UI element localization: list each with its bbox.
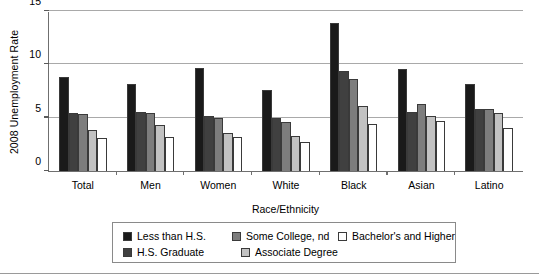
unemployment-bar-chart-figure: 2008 Unemployment Rate 051015 TotalMenWo… — [0, 0, 539, 276]
legend-label-associate-degree: Associate Degree — [255, 246, 338, 258]
bar-asian-series-4 — [436, 121, 446, 171]
bar-asian-series-3 — [426, 116, 436, 171]
bar-men-series-3 — [155, 125, 165, 171]
bar-white-series-1 — [272, 118, 282, 171]
bar-group-white: White — [252, 12, 320, 171]
x-tick-mark-0 — [116, 171, 117, 175]
bar-latino-series-1 — [475, 109, 485, 171]
x-axis-title: Race/Ethnicity — [48, 203, 523, 215]
bar-group-women: Women — [184, 12, 252, 171]
bar-white-series-2 — [281, 122, 291, 171]
bar-latino-series-2 — [484, 109, 494, 171]
bar-black-series-1 — [339, 71, 349, 171]
bar-groups: TotalMenWomenWhiteBlackAsianLatino — [49, 12, 523, 171]
bar-white-series-3 — [291, 136, 301, 171]
x-tick-label-total: Total — [49, 180, 117, 191]
bar-total-series-3 — [88, 130, 98, 171]
bar-asian-series-0 — [398, 69, 408, 171]
bar-group-asian: Asian — [388, 12, 456, 171]
bar-black-series-0 — [330, 23, 340, 171]
y-tick-label-10: 10 — [29, 49, 41, 60]
bar-asian-series-1 — [407, 112, 417, 171]
bar-white-series-4 — [300, 142, 310, 171]
bar-black-series-4 — [368, 124, 378, 171]
bar-women-series-3 — [223, 133, 233, 171]
x-tick-mark-5 — [454, 171, 455, 175]
legend-item-less-than-hs: Less than H.S. — [123, 230, 232, 242]
bar-women-series-2 — [214, 118, 224, 171]
y-tick-label-5: 5 — [35, 102, 41, 113]
y-tick-label-15: 15 — [29, 0, 41, 6]
bar-men-series-2 — [146, 113, 156, 171]
bar-group-latino: Latino — [455, 12, 523, 171]
gridline-15 — [49, 10, 523, 11]
x-tick-label-men: Men — [117, 180, 185, 191]
legend-swatch-some-college — [232, 232, 241, 241]
bar-latino-series-4 — [503, 128, 513, 171]
bar-men-series-4 — [165, 137, 175, 171]
legend-swatch-associate-degree — [241, 248, 250, 257]
bar-women-series-0 — [195, 68, 205, 171]
legend-swatch-less-than-hs — [123, 232, 132, 241]
bar-women-series-4 — [233, 137, 243, 171]
legend-item-bachelors: Bachelor's and Higher — [338, 230, 455, 242]
x-tick-mark-3 — [319, 171, 320, 175]
bar-group-black: Black — [320, 12, 388, 171]
bar-white-series-0 — [262, 90, 272, 171]
bar-group-men: Men — [117, 12, 185, 171]
chart-legend: Less than H.S. Some College, nd Bachelor… — [112, 222, 456, 263]
x-tick-label-latino: Latino — [455, 180, 523, 191]
legend-label-hs-graduate: H.S. Graduate — [137, 246, 204, 258]
legend-item-associate-degree: Associate Degree — [241, 246, 356, 258]
x-tick-label-black: Black — [320, 180, 388, 191]
bar-total-series-4 — [97, 138, 107, 171]
bar-group-total: Total — [49, 12, 117, 171]
legend-label-less-than-hs: Less than H.S. — [137, 230, 206, 242]
legend-row-2: H.S. Graduate Associate Degree — [123, 244, 455, 260]
bar-total-series-1 — [69, 113, 79, 171]
footer-divider — [0, 273, 539, 274]
bar-latino-series-3 — [494, 113, 504, 171]
bar-women-series-1 — [204, 116, 214, 171]
x-tick-label-white: White — [252, 180, 320, 191]
y-tick-label-0: 0 — [35, 156, 41, 167]
plot-area: 051015 TotalMenWomenWhiteBlackAsianLatin… — [48, 12, 523, 172]
x-tick-label-women: Women — [184, 180, 252, 191]
bar-total-series-0 — [59, 77, 69, 171]
x-tick-mark-4 — [386, 171, 387, 175]
legend-label-bachelors: Bachelor's and Higher — [352, 230, 455, 242]
bar-men-series-1 — [136, 112, 146, 171]
bar-men-series-0 — [127, 84, 137, 171]
x-tick-label-asian: Asian — [388, 180, 456, 191]
legend-item-some-college: Some College, nd — [232, 230, 338, 242]
legend-swatch-hs-graduate — [123, 248, 132, 257]
bar-total-series-2 — [78, 114, 88, 171]
bar-black-series-2 — [349, 79, 359, 171]
legend-item-hs-graduate: H.S. Graduate — [123, 246, 241, 258]
x-tick-mark-2 — [251, 171, 252, 175]
legend-row-1: Less than H.S. Some College, nd Bachelor… — [123, 228, 455, 244]
bar-black-series-3 — [358, 106, 368, 171]
x-tick-mark-1 — [183, 171, 184, 175]
bar-asian-series-2 — [417, 104, 427, 171]
legend-label-some-college: Some College, nd — [246, 230, 329, 242]
legend-swatch-bachelors — [338, 232, 347, 241]
bar-latino-series-0 — [465, 84, 475, 171]
y-tick-mark-15 — [44, 10, 49, 11]
